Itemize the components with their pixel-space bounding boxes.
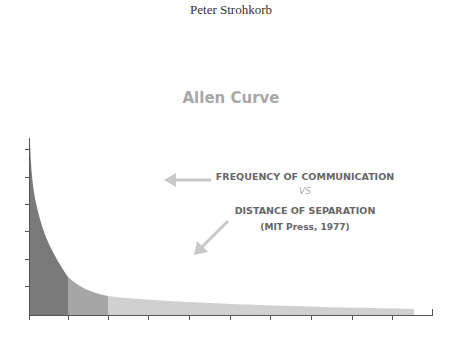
segment-near	[29, 130, 68, 320]
segment-mid	[68, 130, 108, 320]
left-arrow-icon	[164, 173, 211, 187]
annotation-frequency: FREQUENCY OF COMMUNICATION	[212, 171, 398, 182]
annotation-vs: VS	[212, 186, 398, 196]
annotation-source: (MIT Press, 1977)	[212, 222, 398, 232]
annotation-distance: DISTANCE OF SEPARATION	[212, 205, 398, 216]
